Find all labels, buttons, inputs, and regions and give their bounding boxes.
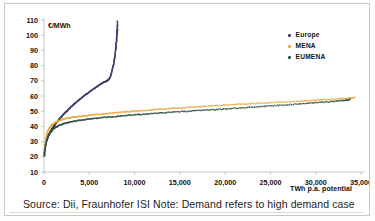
data-point	[228, 104, 229, 105]
data-point	[243, 107, 244, 108]
data-point	[225, 108, 226, 109]
y-axis-tick-label: 70	[30, 76, 38, 85]
data-point	[321, 101, 322, 102]
x-axis-tick-label: 15,000	[169, 178, 191, 187]
y-axis-tick-label: 40	[30, 122, 38, 131]
data-point	[283, 102, 284, 103]
data-point	[213, 109, 214, 110]
data-point	[260, 103, 261, 104]
data-point	[324, 99, 325, 100]
data-point	[249, 103, 250, 104]
data-point	[45, 144, 46, 145]
data-point	[299, 101, 300, 102]
data-point	[296, 104, 297, 105]
data-point	[313, 99, 314, 100]
x-axis-tick-label: 0	[42, 178, 46, 187]
data-point	[249, 106, 250, 107]
data-point	[287, 102, 288, 103]
data-point	[274, 102, 275, 103]
data-point	[223, 108, 224, 109]
data-point	[173, 111, 174, 112]
data-point	[290, 103, 291, 104]
data-point	[308, 103, 309, 104]
data-point	[252, 103, 253, 104]
data-point	[231, 108, 232, 109]
data-point	[139, 110, 140, 111]
data-point	[332, 99, 333, 100]
data-point	[277, 104, 278, 105]
legend-item-label: EUMENA	[296, 54, 326, 61]
data-point	[190, 107, 191, 108]
data-point	[196, 110, 197, 111]
data-point	[136, 114, 137, 115]
data-point	[259, 106, 260, 107]
data-point	[232, 108, 233, 109]
y-axis-tick-label: 20	[30, 152, 38, 161]
data-point	[214, 109, 215, 110]
caption-divider	[10, 212, 364, 213]
data-point	[316, 102, 317, 103]
data-point	[201, 109, 202, 110]
data-point	[208, 105, 209, 106]
legend-item-eumena: EUMENA	[288, 52, 325, 63]
data-point	[256, 102, 257, 103]
series-europe	[44, 20, 119, 156]
data-point	[266, 105, 267, 106]
screenshot-page: 10203040506070809010011005,00010,00015,0…	[0, 0, 375, 221]
y-axis-tick-label: 60	[30, 92, 38, 101]
data-point	[291, 101, 292, 102]
data-point	[247, 106, 248, 107]
data-point	[328, 101, 329, 102]
data-point	[285, 101, 286, 102]
data-point	[315, 102, 316, 103]
data-point	[209, 110, 210, 111]
data-point	[157, 113, 158, 114]
data-point	[207, 109, 208, 110]
data-point	[169, 112, 170, 113]
data-point	[264, 102, 265, 103]
data-point	[237, 108, 238, 109]
data-point	[187, 107, 188, 108]
data-point	[235, 107, 236, 108]
data-point	[313, 102, 314, 103]
data-point	[303, 103, 304, 104]
data-point	[178, 107, 179, 108]
data-point	[301, 100, 302, 101]
data-point	[290, 101, 291, 102]
x-axis-tick-label: 20,000	[214, 178, 236, 187]
data-point	[154, 112, 155, 113]
data-point	[261, 106, 262, 107]
data-point	[239, 103, 240, 104]
data-point	[349, 99, 350, 100]
data-point	[296, 100, 297, 101]
data-point	[256, 106, 257, 107]
y-axis-tick-label: 100	[26, 31, 38, 40]
data-point	[218, 108, 219, 109]
data-point	[213, 105, 214, 106]
data-point	[226, 109, 227, 110]
data-point	[279, 104, 280, 105]
figure-caption: Source: Dii, Fraunhofer ISI Note: Demand…	[23, 198, 355, 210]
data-point	[195, 110, 196, 111]
data-point	[224, 104, 225, 105]
data-point	[210, 105, 211, 106]
data-point	[115, 112, 116, 113]
data-point	[212, 109, 213, 110]
data-point	[245, 104, 246, 105]
data-point	[302, 103, 303, 104]
data-point	[323, 102, 324, 103]
data-point	[310, 102, 311, 103]
data-point	[231, 104, 232, 105]
data-point	[305, 100, 306, 101]
data-point	[340, 100, 341, 101]
data-point	[215, 105, 216, 106]
legend-item-europe: Europe	[288, 30, 325, 41]
data-point	[300, 101, 301, 102]
data-point	[246, 103, 247, 104]
data-point	[172, 111, 173, 112]
data-point	[255, 103, 256, 104]
data-point	[170, 108, 171, 109]
data-point	[240, 104, 241, 105]
data-point	[168, 108, 169, 109]
data-point	[252, 107, 253, 108]
